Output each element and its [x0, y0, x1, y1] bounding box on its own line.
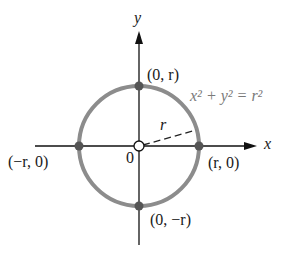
equation-label: x² + y² = r² — [190, 88, 262, 104]
y-axis-arrow-icon — [135, 31, 143, 44]
radius-line — [143, 130, 196, 145]
y-axis-label: y — [134, 10, 141, 26]
point-top — [135, 82, 144, 91]
point-bottom-label: (0, −r) — [150, 212, 191, 228]
point-top-label: (0, r) — [147, 67, 179, 83]
point-right-label: (r, 0) — [208, 155, 239, 171]
radius-label: r — [160, 117, 166, 133]
point-left-label: (−r, 0) — [8, 154, 48, 170]
origin-marker — [134, 141, 144, 151]
x-axis-arrow-icon — [244, 142, 257, 150]
origin-label: 0 — [126, 150, 134, 166]
point-bottom — [135, 202, 144, 211]
x-axis-label: x — [264, 136, 271, 152]
point-left — [75, 142, 84, 151]
point-right — [195, 142, 204, 151]
